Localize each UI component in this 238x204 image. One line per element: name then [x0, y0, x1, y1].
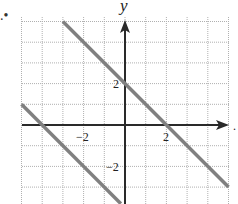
lower-line: [22, 104, 121, 203]
x-tick-label-neg2: −2: [76, 131, 89, 143]
y-tick-label-2: 2: [113, 78, 119, 90]
y-tick-label-neg2: −2: [106, 161, 119, 173]
y-axis-label: y: [120, 0, 128, 14]
x-tick-label-2: 2: [163, 131, 169, 143]
coordinate-graph: [0, 0, 238, 204]
trailing-period: .: [233, 120, 236, 132]
problem-bullet: .•: [0, 8, 8, 24]
upper-line: [63, 22, 229, 188]
axes: [22, 20, 229, 204]
